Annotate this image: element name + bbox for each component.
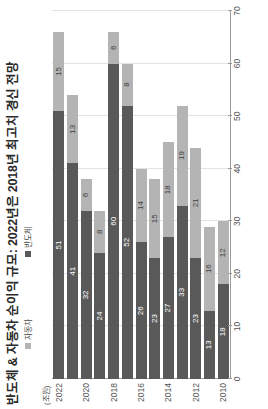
category-axis: 2010201220142016201820202022 xyxy=(52,379,230,409)
bar-segment-automobile[interactable]: 19 xyxy=(177,106,188,206)
bar-value-label: 6 xyxy=(110,46,118,50)
legend-item-automobile: 자동차 xyxy=(22,319,33,349)
bar-segment-semiconductor[interactable]: 51 xyxy=(53,111,64,379)
bar-value-label: 33 xyxy=(178,288,186,297)
bar-segment-automobile[interactable]: 15 xyxy=(53,32,64,111)
bar-segment-semiconductor[interactable]: 18 xyxy=(218,284,229,379)
bar-segment-semiconductor[interactable]: 26 xyxy=(136,242,147,379)
bar-row[interactable]: 2718 xyxy=(163,142,174,379)
chart-canvas: 반도체 & 자동차 순이익 규모: 2022년은 2018년 최고치 경신 전망… xyxy=(0,0,268,409)
bar-segment-semiconductor[interactable]: 60 xyxy=(108,64,119,379)
bar-value-label: 15 xyxy=(55,67,63,76)
value-tick-label: 20 xyxy=(232,269,242,278)
bar-row[interactable]: 1316 xyxy=(204,227,215,379)
bar-segment-automobile[interactable]: 18 xyxy=(163,142,174,237)
bar-segment-automobile[interactable]: 12 xyxy=(218,221,229,284)
chart-title: 반도체 & 자동차 순이익 규모: 2022년은 2018년 최고치 경신 전망 xyxy=(2,61,21,405)
category-tick-label: 2010 xyxy=(218,383,228,402)
bar-value-label: 18 xyxy=(164,185,172,194)
bar-segment-automobile[interactable]: 16 xyxy=(204,227,215,311)
bar-segment-semiconductor[interactable]: 23 xyxy=(149,258,160,379)
plot-area: 1812131623213319271823152614528606248326… xyxy=(52,11,230,379)
bar-segment-automobile[interactable]: 8 xyxy=(122,64,133,106)
chart-legend: 자동차 반도체 xyxy=(22,227,33,349)
bar-segment-automobile[interactable]: 13 xyxy=(67,95,78,163)
category-tick-label: 2018 xyxy=(109,383,119,402)
bar-value-label: 60 xyxy=(110,217,118,226)
bar-value-label: 24 xyxy=(96,311,104,320)
bar-value-label: 32 xyxy=(82,290,90,299)
value-tick-label: 10 xyxy=(232,322,242,331)
value-tick-label: 50 xyxy=(232,111,242,120)
bar-value-label: 41 xyxy=(69,267,77,276)
bar-segment-automobile[interactable]: 21 xyxy=(190,148,201,258)
bar-value-label: 51 xyxy=(55,241,63,250)
bar-value-label: 13 xyxy=(205,340,213,349)
bar-segment-semiconductor[interactable]: 52 xyxy=(122,106,133,379)
bar-value-label: 19 xyxy=(178,151,186,160)
bar-segment-semiconductor[interactable]: 23 xyxy=(190,258,201,379)
bar-value-label: 26 xyxy=(137,306,145,315)
bar-row[interactable]: 528 xyxy=(122,64,133,379)
bar-segment-semiconductor[interactable]: 33 xyxy=(177,206,188,379)
legend-swatch-automobile xyxy=(25,343,31,349)
gridline xyxy=(52,115,230,116)
bar-value-label: 23 xyxy=(151,314,159,323)
bar-row[interactable]: 4113 xyxy=(67,95,78,379)
bar-segment-semiconductor[interactable]: 24 xyxy=(94,253,105,379)
value-tick-label: 0 xyxy=(232,377,242,382)
bar-segment-semiconductor[interactable]: 27 xyxy=(163,237,174,379)
bar-segment-automobile[interactable]: 6 xyxy=(108,32,119,64)
bar-segment-automobile[interactable]: 8 xyxy=(94,211,105,253)
legend-item-semiconductor: 반도체 xyxy=(22,227,33,257)
bar-value-label: 8 xyxy=(96,230,104,234)
legend-label-automobile: 자동차 xyxy=(22,319,33,340)
category-tick-label: 2022 xyxy=(54,383,64,402)
bar-row[interactable]: 248 xyxy=(94,211,105,379)
value-tick-label: 40 xyxy=(232,164,242,173)
bar-value-label: 8 xyxy=(123,82,131,86)
bar-row[interactable]: 1812 xyxy=(218,221,229,379)
bar-row[interactable]: 2315 xyxy=(149,179,160,379)
bar-row[interactable]: 5115 xyxy=(53,32,64,379)
axis-unit-label: (조원) xyxy=(40,386,51,405)
chart-stage: 반도체 & 자동차 순이익 규모: 2022년은 2018년 최고치 경신 전망… xyxy=(0,0,268,409)
bar-row[interactable]: 326 xyxy=(81,179,92,379)
value-tick-label: 30 xyxy=(232,217,242,226)
bar-value-label: 14 xyxy=(137,201,145,210)
bar-value-label: 13 xyxy=(69,125,77,134)
bar-segment-automobile[interactable]: 15 xyxy=(149,179,160,258)
gridline xyxy=(52,10,230,11)
bar-value-label: 16 xyxy=(205,264,213,273)
bar-row[interactable]: 606 xyxy=(108,32,119,379)
bar-row[interactable]: 3319 xyxy=(177,106,188,379)
value-tick-label: 60 xyxy=(232,59,242,68)
legend-label-semiconductor: 반도체 xyxy=(22,227,33,248)
bar-value-label: 15 xyxy=(151,214,159,223)
category-tick-label: 2016 xyxy=(136,383,146,402)
bar-row[interactable]: 2614 xyxy=(136,169,147,379)
gridline xyxy=(52,63,230,64)
bar-segment-semiconductor[interactable]: 32 xyxy=(81,211,92,379)
bar-segment-automobile[interactable]: 6 xyxy=(81,179,92,211)
bar-segment-semiconductor[interactable]: 41 xyxy=(67,163,78,379)
bar-value-label: 6 xyxy=(82,193,90,197)
category-tick-label: 2012 xyxy=(191,383,201,402)
bar-value-label: 18 xyxy=(219,327,227,336)
bar-value-label: 21 xyxy=(192,198,200,207)
category-tick-label: 2014 xyxy=(163,383,173,402)
bar-value-label: 12 xyxy=(219,248,227,257)
value-axis: 010203040506070 xyxy=(232,11,246,379)
bar-value-label: 23 xyxy=(192,314,200,323)
bar-segment-semiconductor[interactable]: 13 xyxy=(204,311,215,379)
value-tick-label: 70 xyxy=(232,6,242,15)
bar-value-label: 52 xyxy=(123,238,131,247)
bar-value-label: 27 xyxy=(164,304,172,313)
bar-segment-automobile[interactable]: 14 xyxy=(136,169,147,243)
category-axis-line xyxy=(230,11,231,379)
legend-swatch-semiconductor xyxy=(25,251,31,257)
category-tick-label: 2020 xyxy=(81,383,91,402)
bar-row[interactable]: 2321 xyxy=(190,148,201,379)
